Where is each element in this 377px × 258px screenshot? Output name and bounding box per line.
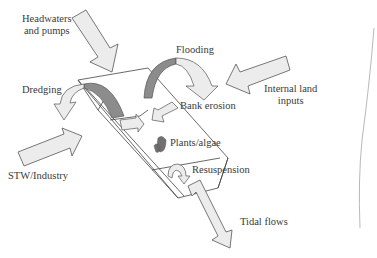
label-resuspension: Resuspension [192, 164, 250, 176]
stw-industry-arrow [18, 128, 82, 166]
sediment-budget-diagram [0, 0, 377, 258]
label-stw-industry: STW/Industry [8, 170, 68, 182]
label-flooding: Flooding [176, 44, 214, 56]
label-headwaters-line1: Headwaters [22, 13, 72, 25]
label-tidal-flows: Tidal flows [240, 216, 288, 228]
label-bank-erosion: Bank erosion [180, 100, 236, 112]
label-headwaters: Headwaters and pumps [22, 13, 72, 37]
headwaters-arrow [72, 10, 118, 72]
flooding-arrow [176, 58, 218, 100]
label-internal-land-line1: Internal land [264, 83, 317, 95]
label-dredging: Dredging [22, 84, 62, 96]
label-headwaters-line2: and pumps [22, 25, 72, 37]
label-internal-land: Internal land inputs [264, 83, 317, 107]
label-internal-land-line2: inputs [264, 95, 317, 107]
page-edge-line [359, 28, 374, 228]
label-plants-algae: Plants/algae [170, 137, 221, 149]
